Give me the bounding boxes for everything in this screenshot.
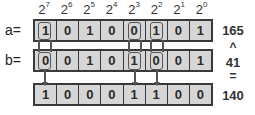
label-b: b=	[5, 52, 21, 68]
bit-cell: 0	[101, 51, 123, 70]
bit-row-a: 1 0 1 0 0 1 0 1	[33, 19, 213, 42]
connector-line	[162, 40, 164, 52]
power-header-4: 24	[101, 2, 123, 17]
connector-line	[150, 40, 152, 52]
highlight-box	[38, 22, 51, 40]
equals-operator: =	[218, 69, 248, 83]
bit-cell: 1	[190, 21, 211, 40]
arrow-down-icon	[42, 82, 48, 86]
power-header-5: 25	[78, 2, 100, 17]
bit-cell: 1	[79, 51, 101, 70]
bit-cell: 1	[35, 85, 57, 104]
bit-cell: 0	[57, 51, 79, 70]
bit-cell: 1	[190, 51, 211, 70]
highlight-box	[38, 52, 51, 70]
bit-row-result: 1 0 0 0 1 1 0 0	[33, 83, 213, 106]
power-header-6: 26	[56, 2, 78, 17]
power-header-7: 27	[33, 2, 55, 17]
bit-cell: 1	[124, 85, 146, 104]
bit-cell: 0	[79, 85, 101, 104]
value-b: 41	[218, 55, 248, 70]
value-a: 165	[218, 23, 248, 38]
bit-cell: 0	[101, 21, 123, 40]
bit-cell: 0	[57, 21, 79, 40]
highlight-box	[150, 52, 163, 70]
xor-operator: ^	[218, 40, 248, 54]
bit-cell: 0	[57, 85, 79, 104]
value-result: 140	[218, 88, 248, 103]
power-header-0: 20	[191, 2, 213, 17]
bit-cell: 0	[168, 21, 190, 40]
bit-cell: 0	[101, 85, 123, 104]
highlight-box	[128, 52, 141, 70]
power-header-3: 23	[123, 2, 145, 17]
label-a: a=	[5, 22, 21, 38]
power-header-2: 22	[146, 2, 168, 17]
connector-line	[128, 40, 130, 52]
connector-line	[38, 40, 40, 52]
bit-cell: 0	[168, 51, 190, 70]
connector-line	[50, 40, 52, 52]
bit-cell: 0	[168, 85, 190, 104]
bit-row-b: 0 0 1 0 1 0 0 1	[33, 49, 213, 72]
highlight-box	[150, 22, 163, 40]
arrow-down-icon	[132, 82, 138, 86]
bit-cell: 1	[79, 21, 101, 40]
bit-cell: 0	[190, 85, 211, 104]
highlight-box	[128, 22, 141, 40]
arrow-down-icon	[154, 82, 160, 86]
power-header-1: 21	[168, 2, 190, 17]
connector-line	[140, 40, 142, 52]
bit-cell: 1	[146, 85, 168, 104]
